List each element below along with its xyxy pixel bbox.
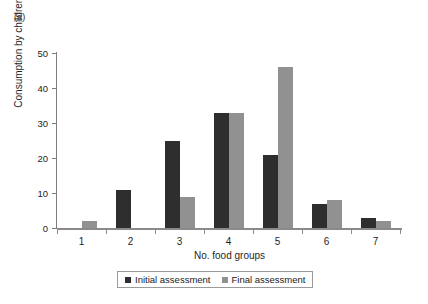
x-tick-mark [302, 230, 303, 234]
x-tick-mark [57, 230, 58, 234]
x-tick-mark [155, 230, 156, 234]
bar [376, 221, 391, 228]
y-tick-label: 50 [22, 48, 48, 59]
x-tick-mark [351, 230, 352, 234]
x-tick-mark [400, 230, 401, 234]
x-tick-label: 7 [361, 236, 391, 247]
figure-panel-a: (a) Consumption by children (%) 01020304… [0, 0, 428, 304]
plot-area [57, 53, 400, 228]
legend-swatch-icon [125, 277, 131, 283]
y-tick-label: 10 [22, 188, 48, 199]
x-tick-mark [106, 230, 107, 234]
y-tick-label: 30 [22, 118, 48, 129]
legend-item: Final assessment [222, 274, 306, 285]
chart-legend: Initial assessmentFinal assessment [117, 271, 313, 288]
x-tick-label: 5 [263, 236, 293, 247]
y-tick-label: 20 [22, 153, 48, 164]
x-tick-mark [204, 230, 205, 234]
bar [361, 218, 376, 229]
x-tick-label: 4 [214, 236, 244, 247]
y-tick-label: 0 [22, 223, 48, 234]
x-tick-label: 3 [165, 236, 195, 247]
x-tick-label: 6 [312, 236, 342, 247]
x-axis-title: No. food groups [57, 250, 402, 261]
legend-label: Initial assessment [135, 274, 211, 285]
x-tick-mark [253, 230, 254, 234]
y-tick-mark [52, 228, 57, 229]
bar-group [57, 53, 400, 228]
y-tick-label: 40 [22, 83, 48, 94]
legend-swatch-icon [222, 277, 228, 283]
x-tick-label: 1 [67, 236, 97, 247]
x-tick-label: 2 [116, 236, 146, 247]
legend-label: Final assessment [232, 274, 306, 285]
legend-item: Initial assessment [125, 274, 211, 285]
y-axis-title: Consumption by children (%) [13, 0, 24, 134]
